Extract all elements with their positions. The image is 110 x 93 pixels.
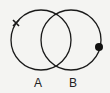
venn-diagram [0,0,110,93]
cross-marker-icon [13,20,19,26]
label-b: B [69,76,77,90]
label-a: A [34,76,42,90]
dot-marker-icon [95,43,103,51]
